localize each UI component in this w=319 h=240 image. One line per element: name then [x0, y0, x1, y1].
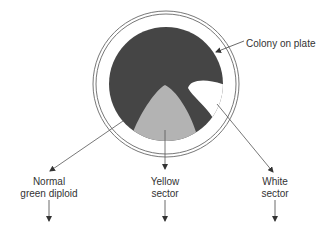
yellow-sector-label: Yellow sector	[140, 176, 190, 200]
colony-label: Colony on plate	[246, 38, 316, 50]
normal-sector-arrow	[50, 121, 123, 171]
colony-pointer-arrow	[216, 41, 244, 52]
yellow-label-line1: Yellow	[140, 176, 190, 188]
white-sector-arrow	[217, 104, 273, 172]
white-label-line1: White	[250, 176, 300, 188]
normal-label-line2: green diploid	[14, 188, 84, 200]
normal-green-diploid-label: Normal green diploid	[14, 176, 84, 200]
white-sector-label: White sector	[250, 176, 300, 200]
yellow-label-line2: sector	[140, 188, 190, 200]
white-label-line2: sector	[250, 188, 300, 200]
colony-label-text: Colony on plate	[246, 38, 316, 50]
normal-label-line1: Normal	[14, 176, 84, 188]
